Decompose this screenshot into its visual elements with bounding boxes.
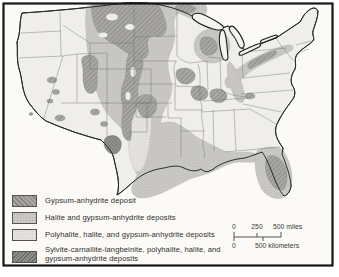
legend-swatch-sylvite <box>12 251 37 263</box>
legend-label-polyhalite: Polyhalite, halite, and gypsum-anhydrite… <box>45 231 215 240</box>
legend-swatch-polyhalite <box>12 229 37 241</box>
legend-label-gypsum: Gypsum-anhydrite deposit <box>45 197 136 206</box>
legend-swatch-halite <box>12 212 37 224</box>
scale-miles-250: 250 <box>251 223 263 230</box>
legend-label-halite: Halite and gypsum-anhydrite deposits <box>45 214 176 223</box>
scale-miles-500: 500 miles <box>273 223 303 230</box>
legend-swatch-gypsum <box>12 195 37 207</box>
legend-item-gypsum: Gypsum-anhydrite deposit <box>12 195 242 207</box>
legend-item-sylvite: Sylvite-carnallite-langbeinite, polyhali… <box>12 246 242 263</box>
legend-label-sylvite: Sylvite-carnallite-langbeinite, polyhali… <box>45 246 235 263</box>
map-figure: 0 250 500 miles 0 500 kilometers Gypsum-… <box>0 0 339 277</box>
legend-item-halite: Halite and gypsum-anhydrite deposits <box>12 212 242 224</box>
legend-item-polyhalite: Polyhalite, halite, and gypsum-anhydrite… <box>12 229 242 241</box>
scale-km-500: 500 kilometers <box>255 242 300 249</box>
map-legend: Gypsum-anhydrite deposit Halite and gyps… <box>12 195 242 263</box>
